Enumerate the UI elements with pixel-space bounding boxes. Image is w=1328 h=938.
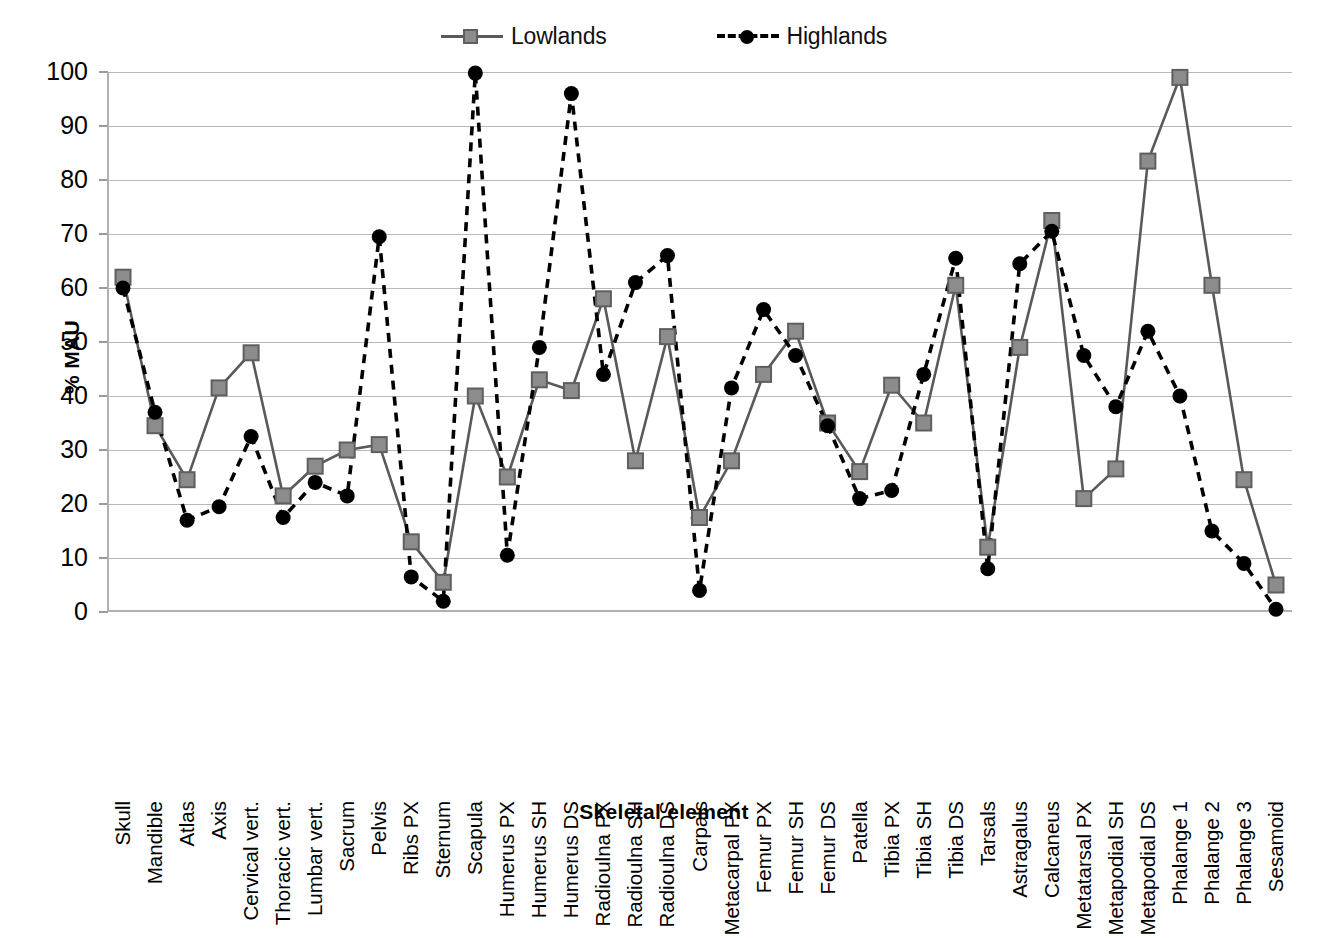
data-point-lowlands (308, 459, 323, 474)
data-point-lowlands (564, 383, 579, 398)
data-point-lowlands (724, 453, 739, 468)
data-point-lowlands (1140, 154, 1155, 169)
data-point-lowlands (1108, 461, 1123, 476)
data-point-highlands (980, 561, 995, 576)
y-tick-label: 30 (60, 437, 88, 462)
data-point-highlands (1108, 399, 1123, 414)
lowlands-series-icon (441, 26, 503, 46)
data-point-lowlands (692, 510, 707, 525)
data-point-highlands (340, 488, 355, 503)
data-point-lowlands (276, 488, 291, 503)
series-layer (107, 72, 1292, 612)
data-point-lowlands (340, 443, 355, 458)
y-tick-label: 50 (60, 329, 88, 354)
data-point-highlands (1204, 524, 1219, 539)
data-point-highlands (468, 66, 483, 81)
data-point-highlands (116, 281, 131, 296)
data-point-lowlands (436, 575, 451, 590)
y-tick-label: 20 (60, 491, 88, 516)
data-point-highlands (1140, 324, 1155, 339)
y-tick-label: 40 (60, 383, 88, 408)
data-point-lowlands (628, 453, 643, 468)
data-point-highlands (852, 491, 867, 506)
x-axis-tick-labels: SkullMandibleAtlasAxisCervical vert.Thor… (107, 616, 1292, 801)
y-tick-label: 90 (60, 113, 88, 138)
data-point-highlands (1044, 224, 1059, 239)
data-point-lowlands (1204, 278, 1219, 293)
x-axis-title: Skeletal element (0, 800, 1328, 824)
data-point-lowlands (756, 367, 771, 382)
data-point-highlands (756, 302, 771, 317)
legend-label-highlands: Highlands (787, 23, 888, 50)
data-point-lowlands (148, 418, 163, 433)
highlands-series-icon (717, 26, 779, 46)
data-point-lowlands (916, 416, 931, 431)
data-point-highlands (788, 348, 803, 363)
data-point-highlands (436, 594, 451, 609)
data-point-highlands (212, 499, 227, 514)
data-point-lowlands (500, 470, 515, 485)
data-point-highlands (1076, 348, 1091, 363)
y-tick-label: 60 (60, 275, 88, 300)
y-tick-label: 100 (46, 59, 88, 84)
data-point-lowlands (468, 389, 483, 404)
data-point-highlands (180, 513, 195, 528)
data-point-lowlands (404, 534, 419, 549)
data-point-lowlands (372, 437, 387, 452)
data-point-lowlands (532, 372, 547, 387)
legend-label-lowlands: Lowlands (511, 23, 607, 50)
y-tick-label: 70 (60, 221, 88, 246)
data-point-lowlands (852, 464, 867, 479)
data-point-highlands (532, 340, 547, 355)
data-point-lowlands (660, 329, 675, 344)
data-point-highlands (820, 418, 835, 433)
data-point-lowlands (980, 540, 995, 555)
data-point-lowlands (212, 380, 227, 395)
data-point-highlands (916, 367, 931, 382)
data-point-highlands (884, 483, 899, 498)
data-point-highlands (692, 583, 707, 598)
data-point-highlands (1236, 556, 1251, 571)
data-point-lowlands (1012, 340, 1027, 355)
data-point-lowlands (1236, 472, 1251, 487)
y-tick-label: 10 (60, 545, 88, 570)
legend-item-highlands: Highlands (717, 23, 888, 50)
data-point-lowlands (180, 472, 195, 487)
data-point-lowlands (596, 291, 611, 306)
data-point-highlands (596, 367, 611, 382)
legend-item-lowlands: Lowlands (441, 23, 607, 50)
data-point-lowlands (1172, 70, 1187, 85)
y-tick-label: 80 (60, 167, 88, 192)
data-point-lowlands (788, 324, 803, 339)
data-point-highlands (308, 475, 323, 490)
y-tick-label: 0 (74, 599, 88, 624)
series-line-highlands (123, 73, 1276, 609)
series-line-lowlands (123, 77, 1276, 585)
data-point-lowlands (244, 345, 259, 360)
data-point-lowlands (1268, 578, 1283, 593)
data-point-highlands (404, 569, 419, 584)
data-point-lowlands (884, 378, 899, 393)
data-point-highlands (244, 429, 259, 444)
data-point-highlands (276, 510, 291, 525)
data-point-lowlands (948, 278, 963, 293)
data-point-highlands (660, 248, 675, 263)
data-point-highlands (628, 275, 643, 290)
data-point-highlands (948, 251, 963, 266)
data-point-highlands (1172, 389, 1187, 404)
data-point-highlands (1268, 602, 1283, 617)
data-point-highlands (500, 548, 515, 563)
data-point-highlands (372, 229, 387, 244)
data-point-highlands (148, 405, 163, 420)
data-point-highlands (724, 380, 739, 395)
chart-legend: Lowlands Highlands (0, 16, 1328, 56)
data-point-lowlands (1076, 491, 1091, 506)
data-point-highlands (564, 86, 579, 101)
y-axis-tick-labels: 1009080706050403020100 (0, 72, 100, 612)
data-point-highlands (1012, 256, 1027, 271)
